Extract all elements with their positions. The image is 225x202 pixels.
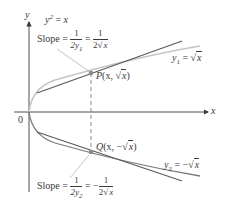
frac-den-sub-3: 2 [79,192,83,200]
lower-root: x [194,158,199,170]
frac-num: 1 [70,29,82,40]
point-Q-label: Q(x, −√x) [96,142,137,152]
upper-root: x [196,51,201,63]
x-axis-label: x [211,106,215,116]
slope-eq-2: = − [82,180,98,191]
slope-word: Slope = [37,33,70,44]
upper-eq: = [180,52,191,63]
frac-num-3: 1 [70,176,82,187]
lower-slope-label: Slope = 12y2 = −12√x [37,176,113,197]
frac-den-4: 2 [99,187,104,197]
point-P-marker [89,71,94,76]
frac-den-2: 2 [93,40,98,50]
slope-word-2: Slope = [37,180,70,191]
point-P-label: P(x, √x) [96,71,130,81]
point-Q-marker [89,150,94,155]
parabola-diagram [0,0,225,202]
upper-slope-label: Slope = 12y1 = 12√x [37,29,108,50]
frac-den-sub: 1 [79,45,83,53]
slope-eq: = [82,33,93,44]
frac-den: 2y [70,40,79,50]
point-Q-close: ) [133,141,136,152]
origin-label: 0 [18,115,23,125]
curve-eq-rhs: x [64,14,68,25]
lower-branch-label: y2 = −√x [164,160,199,170]
frac-den-root-4: x [108,186,113,197]
upper-slope-leader [57,49,90,72]
y-axis-label: y [25,10,29,20]
frac-den-3: 2y [70,187,79,197]
upper-branch-label: y1 = √x [172,53,202,63]
curve-eq-sign: = [53,14,64,25]
point-P-close: ) [126,70,129,81]
lower-tangent-line [37,132,182,181]
lower-eq: = − [172,159,188,170]
point-P-open: (x, [102,70,115,81]
lower-slope-leader [70,155,89,178]
frac-den-root: x [103,39,108,50]
curve-equation: y2 = x [45,15,68,25]
point-Q-open: (x, − [103,141,122,152]
